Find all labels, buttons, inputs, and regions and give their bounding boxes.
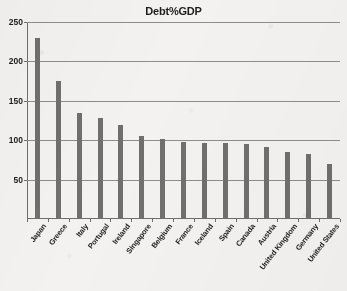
bar bbox=[327, 164, 332, 219]
y-axis-tick-mark bbox=[24, 180, 27, 181]
x-axis-label: Iceland bbox=[193, 222, 215, 247]
bar bbox=[98, 118, 103, 219]
x-axis-label: Canada bbox=[234, 222, 257, 248]
x-axis-label: Spain bbox=[217, 222, 236, 243]
y-axis-tick-mark bbox=[24, 101, 27, 102]
x-axis-label: Belgium bbox=[149, 222, 174, 250]
y-axis-tick-label: 250 bbox=[0, 17, 23, 27]
x-axis-label: Japan bbox=[29, 222, 49, 244]
y-axis-tick-mark bbox=[24, 140, 27, 141]
bar bbox=[264, 147, 269, 219]
bar bbox=[244, 144, 249, 219]
bar bbox=[160, 139, 165, 219]
x-axis-label: Portugal bbox=[86, 222, 111, 251]
bar bbox=[139, 136, 144, 219]
x-axis-label: France bbox=[173, 222, 195, 246]
x-axis-label: Greece bbox=[47, 222, 69, 247]
bar bbox=[35, 38, 40, 219]
chart-screenshot: Debt%GDP 50100150200250 JapanGreeceItaly… bbox=[0, 0, 347, 291]
x-axis-labels: JapanGreeceItalyPortugalIrelandSingapore… bbox=[0, 222, 347, 291]
y-axis-tick-label: 150 bbox=[0, 96, 23, 106]
y-axis-tick-mark bbox=[24, 22, 27, 23]
bar bbox=[77, 113, 82, 219]
y-axis-tick-label: 100 bbox=[0, 135, 23, 145]
y-axis-tick-mark bbox=[24, 61, 27, 62]
bar bbox=[118, 125, 123, 219]
y-axis-tick-label: 200 bbox=[0, 56, 23, 66]
bar bbox=[202, 143, 207, 219]
bar bbox=[285, 152, 290, 219]
y-axis-tick-label: 50 bbox=[0, 175, 23, 185]
bar-series bbox=[27, 22, 340, 219]
bar bbox=[181, 142, 186, 219]
bar bbox=[223, 143, 228, 219]
bar bbox=[56, 81, 61, 219]
bar bbox=[306, 154, 311, 219]
x-axis-label: Italy bbox=[74, 222, 90, 239]
chart-title: Debt%GDP bbox=[0, 5, 347, 17]
